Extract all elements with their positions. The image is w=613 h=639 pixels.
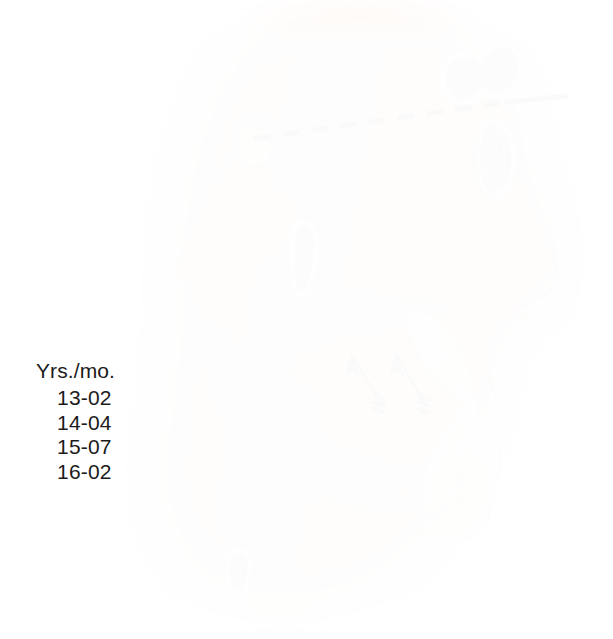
legend-entry: 15-07 xyxy=(57,436,166,457)
legend-entry: 14-04 xyxy=(57,412,166,433)
illustration-stage: Yrs./mo. 13-02 14-04 15-07 16-02 xyxy=(0,0,613,639)
legend-title: Yrs./mo. xyxy=(36,360,166,381)
edge-vignette xyxy=(0,0,613,639)
age-legend: Yrs./mo. 13-02 14-04 15-07 16-02 xyxy=(36,360,166,485)
legend-entry: 13-02 xyxy=(57,387,166,408)
craniofacial-illustration xyxy=(0,0,613,639)
legend-entry: 16-02 xyxy=(57,461,166,482)
legend-entry-list: 13-02 14-04 15-07 16-02 xyxy=(36,387,166,482)
